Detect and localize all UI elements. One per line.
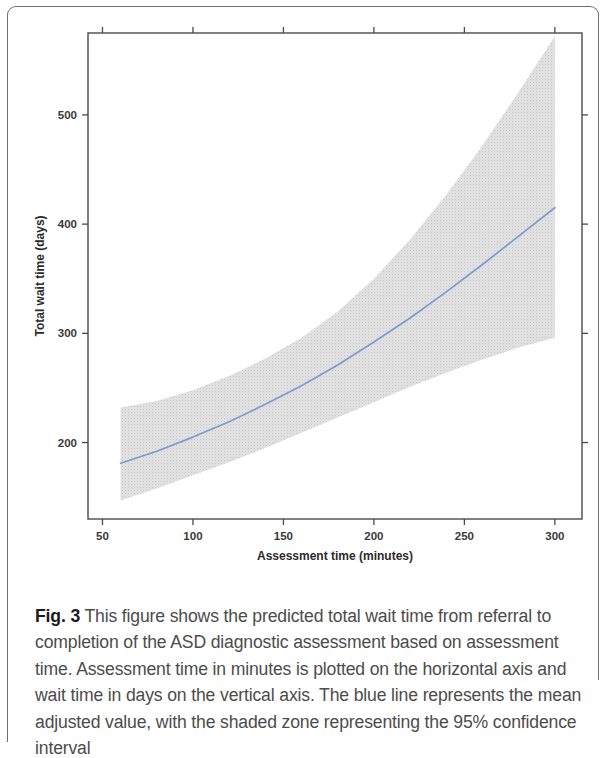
x-tick-label: 300 (545, 530, 564, 542)
y-tick-label: 400 (58, 218, 77, 230)
y-tick-label: 300 (58, 327, 77, 339)
x-tick-label: 100 (183, 530, 202, 542)
y-tick-label: 500 (58, 109, 77, 121)
figure-caption-body: This figure shows the predicted total wa… (35, 606, 581, 758)
wait-time-chart: 50100150200250300 200300400500 Assessmen… (8, 7, 600, 567)
chart-plot-area: 50100150200250300 200300400500 Assessmen… (8, 7, 600, 567)
x-axis-title: Assessment time (minutes) (257, 549, 413, 563)
x-tick-label: 250 (455, 530, 474, 542)
y-axis-title: Total wait time (days) (33, 215, 47, 336)
x-tick-label: 200 (364, 530, 383, 542)
figure-label: Fig. 3 (35, 606, 80, 626)
x-tick-label: 150 (274, 530, 293, 542)
figure-card: 50100150200250300 200300400500 Assessmen… (7, 6, 599, 742)
x-tick-label: 50 (96, 530, 109, 542)
confidence-interval-band (121, 36, 555, 500)
card-border-gap (596, 680, 600, 742)
figure-caption: Fig. 3 This figure shows the predicted t… (35, 603, 583, 758)
y-tick-label: 200 (58, 437, 77, 449)
